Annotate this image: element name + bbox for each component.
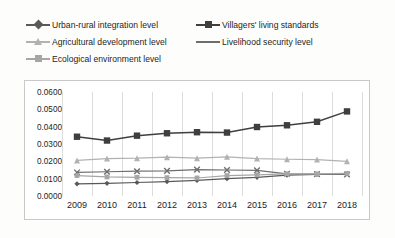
data-point	[254, 124, 260, 130]
data-point	[164, 130, 170, 136]
series-layer	[62, 92, 362, 196]
data-point	[224, 129, 230, 135]
legend-marker-square-icon	[196, 19, 220, 30]
gridline-vertical	[362, 92, 363, 196]
legend-label: Ecological environment level	[52, 54, 161, 64]
data-point	[75, 173, 80, 178]
x-axis-tick-label: 2009	[67, 200, 87, 210]
legend-marker-cross-icon	[196, 36, 220, 47]
x-axis-tick-labels: 2009201020112012201320142015201620172018	[62, 200, 362, 216]
data-point	[314, 119, 320, 125]
data-point	[284, 122, 290, 128]
y-axis-tick-label: 0.0600	[37, 88, 62, 97]
data-point	[344, 108, 350, 114]
data-point	[134, 132, 140, 138]
data-point	[74, 181, 79, 186]
data-point	[105, 175, 110, 180]
x-axis-tick-label: 2014	[217, 200, 237, 210]
chart-figure: Urban-rural integration level Villagers'…	[0, 0, 395, 238]
legend-item-agricultural-development-level: Agricultural development level	[26, 33, 196, 50]
x-axis-tick-label: 2017	[307, 200, 327, 210]
legend-marker-triangle-icon	[26, 36, 50, 47]
y-axis-tick-label: 0.0000	[37, 192, 62, 201]
data-point	[134, 180, 139, 185]
series-line	[77, 173, 347, 178]
x-axis-tick-label: 2010	[97, 200, 117, 210]
legend-label: Villagers' living standards	[222, 20, 319, 30]
series-triangle	[74, 154, 350, 165]
plot-area	[62, 92, 362, 196]
x-axis-tick-label: 2011	[127, 200, 146, 210]
series-square	[74, 108, 350, 144]
y-axis-tick-label: 0.0100	[37, 174, 62, 183]
data-point	[255, 172, 260, 177]
data-point	[315, 171, 320, 176]
legend-label: Agricultural development level	[52, 37, 167, 47]
y-axis-tick-label: 0.0400	[37, 122, 62, 131]
legend-label: Urban-rural integration level	[52, 20, 158, 30]
legend-item-livelihood-security-level: Livelihood security level	[196, 33, 370, 50]
data-point	[165, 175, 170, 180]
data-point	[195, 176, 200, 181]
x-axis-tick-label: 2013	[187, 200, 207, 210]
x-axis-tick-label: 2012	[157, 200, 177, 210]
chart-legend: Urban-rural integration level Villagers'…	[26, 16, 370, 70]
legend-item-villagers-living-standards: Villagers' living standards	[196, 16, 370, 33]
x-axis-tick-label: 2015	[247, 200, 267, 210]
data-point	[104, 137, 110, 143]
y-axis-tick-label: 0.0300	[37, 140, 62, 149]
series-line	[77, 157, 347, 162]
x-axis-tick-label: 2016	[277, 200, 297, 210]
data-point	[104, 181, 109, 186]
y-axis-tick-labels: 0.00000.01000.02000.03000.04000.05000.06…	[26, 86, 62, 202]
data-point	[135, 175, 140, 180]
legend-item-ecological-environment-level: Ecological environment level	[26, 50, 196, 67]
data-point	[194, 129, 200, 135]
series-line	[77, 174, 347, 184]
data-point	[345, 171, 350, 176]
data-point	[285, 171, 290, 176]
data-point	[225, 173, 230, 178]
y-axis-tick-label: 0.0200	[37, 157, 62, 166]
y-axis-tick-label: 0.0500	[37, 105, 62, 114]
legend-marker-diamond-icon	[26, 19, 50, 30]
series-line	[77, 111, 347, 140]
legend-marker-square-small-icon	[26, 53, 50, 64]
data-point	[74, 134, 80, 140]
x-axis-tick-label: 2018	[337, 200, 357, 210]
series-cross	[74, 167, 350, 177]
legend-item-urban-rural-integration-level: Urban-rural integration level	[26, 16, 196, 33]
legend-label: Livelihood security level	[222, 37, 313, 47]
